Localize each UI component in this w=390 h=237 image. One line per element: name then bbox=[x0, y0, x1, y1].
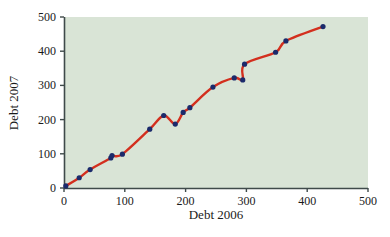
data-point bbox=[181, 110, 186, 115]
x-tick-label: 400 bbox=[298, 194, 316, 208]
data-point bbox=[283, 38, 288, 43]
data-point bbox=[147, 127, 152, 132]
data-point bbox=[88, 167, 93, 172]
data-point bbox=[210, 85, 215, 90]
x-tick-label: 100 bbox=[116, 194, 134, 208]
data-point bbox=[109, 153, 114, 158]
y-tick-label: 100 bbox=[38, 147, 56, 161]
y-tick-label: 300 bbox=[38, 78, 56, 92]
y-tick-label: 200 bbox=[38, 113, 56, 127]
y-tick-label: 0 bbox=[50, 181, 56, 195]
data-point bbox=[187, 105, 192, 110]
x-tick-label: 0 bbox=[61, 194, 67, 208]
data-point bbox=[173, 121, 178, 126]
data-point bbox=[273, 50, 278, 55]
plot-area-background bbox=[64, 17, 368, 188]
x-tick-label: 500 bbox=[359, 194, 377, 208]
y-axis-title: Debt 2007 bbox=[6, 75, 21, 130]
data-point bbox=[63, 183, 68, 188]
x-tick-label: 200 bbox=[177, 194, 195, 208]
y-tick-label: 500 bbox=[38, 10, 56, 24]
data-point bbox=[161, 113, 166, 118]
data-point bbox=[120, 152, 125, 157]
data-point bbox=[242, 62, 247, 67]
x-axis-title: Debt 2006 bbox=[189, 207, 244, 222]
data-point bbox=[320, 24, 325, 29]
data-point bbox=[77, 175, 82, 180]
y-tick-label: 400 bbox=[38, 44, 56, 58]
scatter-chart: 0100200300400500 0100200300400500 Debt 2… bbox=[0, 0, 390, 237]
data-point bbox=[240, 77, 245, 82]
data-point bbox=[232, 75, 237, 80]
x-tick-label: 300 bbox=[237, 194, 255, 208]
